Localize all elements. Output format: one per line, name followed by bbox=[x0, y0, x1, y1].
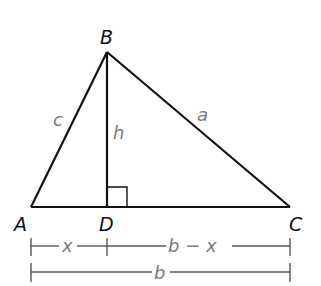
point-label-A: A bbox=[12, 213, 27, 235]
dim-label-b-minus-x: b − x bbox=[168, 235, 217, 256]
diagram-svg: B A D C c h a x b − x b bbox=[0, 0, 321, 286]
point-label-B: B bbox=[100, 26, 113, 48]
point-label-C: C bbox=[289, 213, 303, 235]
point-label-D: D bbox=[99, 213, 114, 235]
side-label-c: c bbox=[53, 109, 63, 130]
dim-label-b: b bbox=[154, 262, 165, 283]
side-label-h: h bbox=[113, 122, 124, 143]
side-label-a: a bbox=[197, 104, 208, 125]
right-angle-marker bbox=[107, 187, 127, 207]
side-BC bbox=[107, 52, 290, 207]
triangle-diagram: B A D C c h a x b − x b bbox=[0, 0, 321, 286]
dim-label-x: x bbox=[61, 235, 73, 256]
side-AB bbox=[31, 52, 107, 207]
